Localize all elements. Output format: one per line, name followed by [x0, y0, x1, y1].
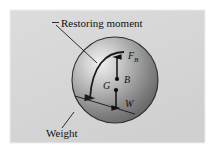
- center-of-gravity-label: G: [103, 80, 110, 91]
- weight-label: Weight: [46, 127, 78, 139]
- restoring-moment-label: Restoring moment: [61, 17, 143, 29]
- center-of-buoyancy-label: B: [124, 74, 130, 85]
- buoyancy-force-subscript: B: [134, 56, 139, 64]
- figure-root: Restoring moment Weight F B W B G: [0, 0, 214, 152]
- sphere-body: [72, 37, 158, 123]
- center-of-gravity-dot: [114, 88, 118, 92]
- center-of-buoyancy-dot: [115, 77, 119, 81]
- restoring-moment-diagram: Restoring moment Weight F B W B G: [0, 0, 214, 152]
